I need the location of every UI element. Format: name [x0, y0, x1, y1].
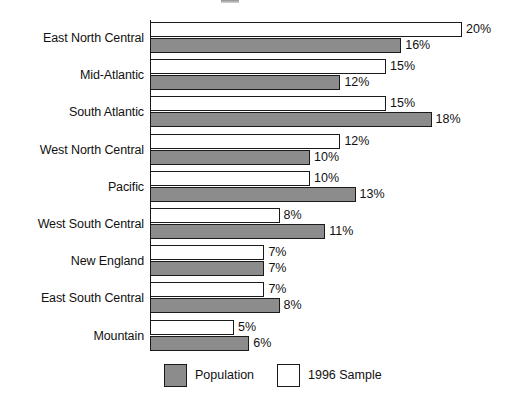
bar-sample	[150, 96, 386, 111]
bar-sample	[150, 245, 264, 260]
category-label: West South Central	[0, 217, 144, 232]
bar-row-population: 16%	[150, 38, 461, 53]
plot-area: East North Central20%16%Mid-Atlantic15%1…	[0, 0, 509, 350]
bar-row-population: 6%	[150, 336, 309, 351]
bar-value-label: 10%	[310, 171, 339, 186]
bar-population	[150, 224, 325, 239]
bar-sample	[150, 22, 462, 37]
bar-population	[150, 150, 310, 165]
bar-row-sample: 8%	[150, 208, 340, 223]
category-label: Mid-Atlantic	[0, 68, 144, 83]
bar-value-label: 10%	[310, 150, 339, 165]
bar-row-sample: 7%	[150, 245, 324, 260]
bar-row-sample: 15%	[150, 59, 446, 74]
category-label: East North Central	[0, 31, 144, 46]
bar-row-sample: 12%	[150, 134, 400, 149]
category-label: West North Central	[0, 143, 144, 158]
category-label: Mountain	[0, 329, 144, 344]
bar-row-population: 12%	[150, 75, 400, 90]
bar-row-population: 18%	[150, 112, 492, 127]
bar-value-label: 8%	[280, 208, 302, 223]
white-swatch-icon	[277, 364, 300, 387]
bar-chart: East North Central20%16%Mid-Atlantic15%1…	[0, 0, 509, 414]
bar-population	[150, 112, 432, 127]
bar-value-label: 20%	[462, 22, 491, 37]
legend-label-population: Population	[195, 368, 254, 383]
bar-value-label: 18%	[432, 112, 461, 127]
chart-legend: Population 1996 Sample	[0, 362, 509, 396]
bar-group: West South Central8%11%	[0, 207, 509, 244]
bar-sample	[150, 59, 386, 74]
category-label: New England	[0, 254, 144, 269]
bar-sample	[150, 134, 340, 149]
category-label: East South Central	[0, 291, 144, 306]
bar-population	[150, 336, 249, 351]
bar-population	[150, 38, 401, 53]
bar-row-sample: 10%	[150, 171, 370, 186]
bar-group: East North Central20%16%	[0, 21, 509, 58]
bar-group: Pacific10%13%	[0, 170, 509, 207]
bar-sample	[150, 282, 264, 297]
bar-row-sample: 15%	[150, 96, 446, 111]
bar-population	[150, 75, 340, 90]
bar-population	[150, 187, 356, 202]
bar-value-label: 6%	[249, 336, 271, 351]
bar-group: West North Central12%10%	[0, 133, 509, 170]
bar-value-label: 15%	[386, 96, 415, 111]
bar-row-sample: 5%	[150, 320, 294, 335]
legend-label-sample: 1996 Sample	[308, 368, 382, 383]
bar-sample	[150, 171, 310, 186]
bar-row-population: 11%	[150, 224, 385, 239]
bar-value-label: 8%	[280, 298, 302, 313]
bar-population	[150, 298, 280, 313]
bar-value-label: 7%	[264, 245, 286, 260]
bar-value-label: 7%	[264, 282, 286, 297]
bar-value-label: 16%	[401, 38, 430, 53]
bar-population	[150, 261, 264, 276]
bar-row-population: 13%	[150, 187, 416, 202]
bar-row-population: 7%	[150, 261, 324, 276]
bar-group: East South Central7%8%	[0, 281, 509, 318]
bar-group: New England7%7%	[0, 244, 509, 281]
gray-swatch-icon	[164, 364, 187, 387]
bar-value-label: 7%	[264, 261, 286, 276]
bar-value-label: 12%	[340, 75, 369, 90]
bar-group: South Atlantic15%18%	[0, 95, 509, 132]
bar-value-label: 15%	[386, 59, 415, 74]
bar-row-population: 8%	[150, 298, 340, 313]
bar-row-population: 10%	[150, 150, 370, 165]
bar-value-label: 5%	[234, 320, 256, 335]
bar-value-label: 11%	[325, 224, 353, 239]
bar-sample	[150, 320, 234, 335]
bar-value-label: 12%	[340, 134, 369, 149]
category-label: Pacific	[0, 180, 144, 195]
bar-group: Mountain5%6%	[0, 319, 509, 356]
bar-row-sample: 7%	[150, 282, 324, 297]
bar-row-sample: 20%	[150, 22, 509, 37]
category-label: South Atlantic	[0, 105, 144, 120]
bar-group: Mid-Atlantic15%12%	[0, 58, 509, 95]
bar-sample	[150, 208, 280, 223]
bar-value-label: 13%	[356, 187, 385, 202]
